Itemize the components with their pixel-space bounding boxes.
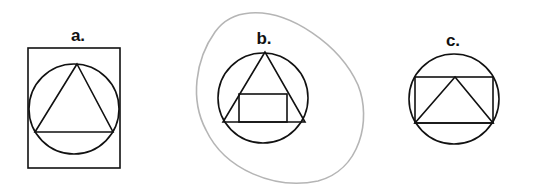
figure-b-blob-outline: [196, 13, 363, 183]
figure-b: b.: [196, 13, 363, 183]
figure-c-triangle: [415, 77, 493, 123]
figure-c: c.: [409, 31, 499, 144]
figure-a-rectangle: [28, 48, 120, 168]
figure-a-circle: [29, 64, 119, 154]
geometry-diagram: a. b. c.: [0, 0, 540, 190]
figure-c-rectangle: [415, 77, 493, 123]
figure-c-circle: [409, 54, 499, 144]
figure-b-circle: [218, 53, 308, 143]
figure-b-rectangle: [239, 94, 287, 122]
figure-c-label: c.: [446, 31, 460, 50]
figure-a: a.: [28, 26, 120, 168]
figure-a-label: a.: [71, 26, 85, 45]
figure-b-label: b.: [256, 29, 271, 48]
